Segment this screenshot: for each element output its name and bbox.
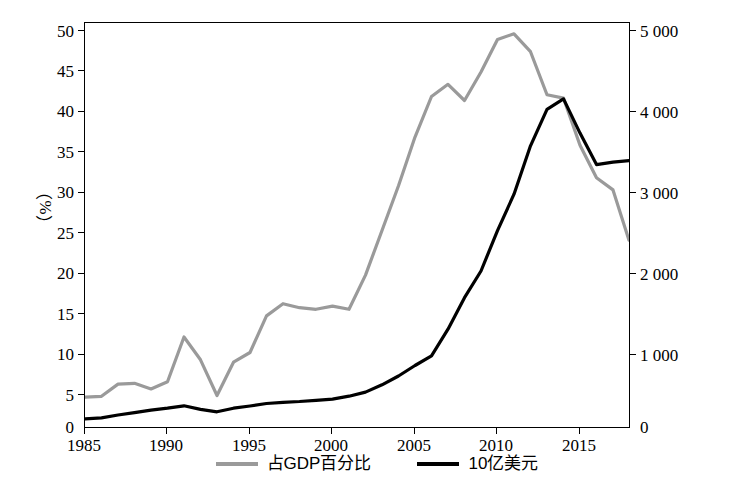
legend-swatch-gdp-percent xyxy=(216,462,258,466)
x-tick-label: 1990 xyxy=(136,437,196,454)
x-tick-label: 2005 xyxy=(384,437,444,454)
series-line-gdp-percent xyxy=(85,34,629,397)
x-tick-mark xyxy=(496,428,497,434)
x-tick-mark xyxy=(579,428,580,434)
x-tick-mark xyxy=(331,428,332,434)
legend-label-billion-usd: 10亿美元 xyxy=(468,455,538,472)
y-tick-label: 30 xyxy=(28,184,74,201)
y-tick-label: 40 xyxy=(28,103,74,120)
y2-tick-label: 4 000 xyxy=(640,104,720,121)
y-tick-label: 45 xyxy=(28,63,74,80)
y-tick-label: 50 xyxy=(28,23,74,40)
y-tick-label: 25 xyxy=(28,225,74,242)
y2-tick-label: 1 000 xyxy=(640,347,720,364)
y-tick-label: 5 xyxy=(28,387,74,404)
y-tick-mark xyxy=(78,192,84,193)
x-tick-label: 2000 xyxy=(301,437,361,454)
x-tick-label: 2015 xyxy=(549,437,609,454)
y2-tick-mark xyxy=(630,111,636,112)
y-tick-label: 35 xyxy=(28,144,74,161)
y-tick-mark xyxy=(78,313,84,314)
y2-tick-label: 0 xyxy=(640,419,720,436)
y-tick-label: 20 xyxy=(28,265,74,282)
y-tick-mark xyxy=(78,70,84,71)
x-tick-label: 2010 xyxy=(466,437,526,454)
y-tick-mark xyxy=(78,30,84,31)
x-tick-label: 1985 xyxy=(54,437,114,454)
series-line-billion-usd xyxy=(85,99,629,419)
x-tick-mark xyxy=(414,428,415,434)
plot-area xyxy=(84,22,630,428)
legend-item-gdp-percent: 占GDP百分比 xyxy=(216,455,372,472)
x-tick-mark xyxy=(84,428,85,434)
y-tick-label: 15 xyxy=(28,306,74,323)
y-tick-mark xyxy=(78,354,84,355)
y-tick-mark xyxy=(78,111,84,112)
x-tick-mark xyxy=(249,428,250,434)
y2-tick-mark xyxy=(630,30,636,31)
y2-tick-label: 3 000 xyxy=(640,185,720,202)
legend-item-billion-usd: 10亿美元 xyxy=(417,455,538,472)
y2-tick-label: 5 000 xyxy=(640,23,720,40)
y-tick-mark xyxy=(78,232,84,233)
chart-legend: 占GDP百分比 10亿美元 xyxy=(0,455,754,472)
legend-swatch-billion-usd xyxy=(417,462,459,466)
y-tick-label: 0 xyxy=(28,419,74,436)
x-tick-mark xyxy=(166,428,167,434)
legend-label-gdp-percent: 占GDP百分比 xyxy=(267,455,372,472)
y-tick-label: 10 xyxy=(28,346,74,363)
y2-tick-mark xyxy=(630,354,636,355)
chart-container: （%） 50 45 40 35 30 25 20 15 10 5 0 5 000… xyxy=(0,0,754,498)
series-lines xyxy=(85,23,629,427)
y2-tick-mark xyxy=(630,273,636,274)
y2-tick-mark xyxy=(630,192,636,193)
y-tick-mark xyxy=(78,273,84,274)
y2-tick-label: 2 000 xyxy=(640,266,720,283)
x-tick-label: 1995 xyxy=(219,437,279,454)
y-tick-mark xyxy=(78,394,84,395)
y-tick-mark xyxy=(78,151,84,152)
